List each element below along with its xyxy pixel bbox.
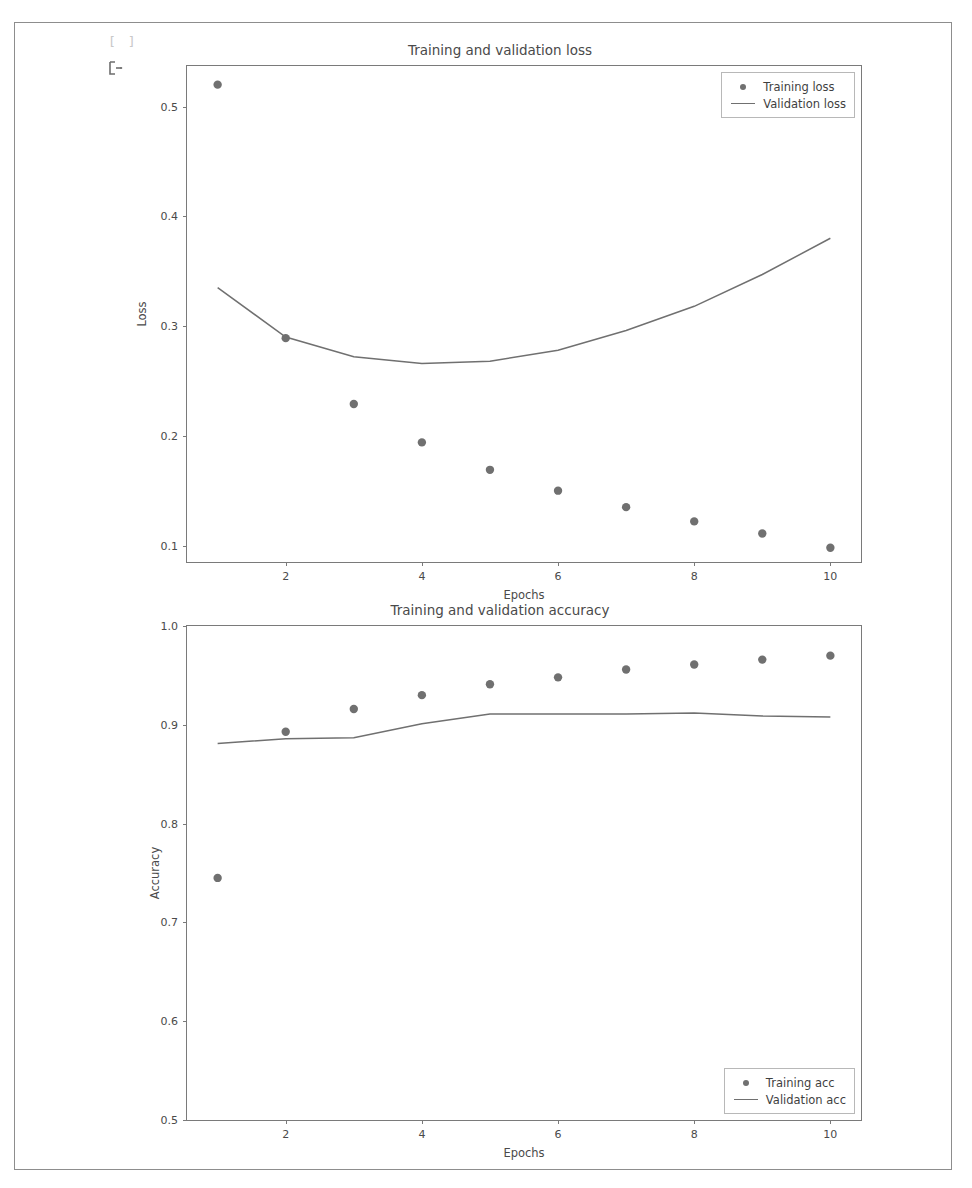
y-tick-mark	[183, 436, 187, 437]
x-axis-label-accuracy: Epochs	[187, 1146, 861, 1160]
x-tick-mark	[830, 1120, 831, 1124]
x-tick-label: 8	[691, 1128, 698, 1141]
y-tick-mark	[183, 626, 187, 627]
data-point	[282, 728, 290, 736]
x-tick-mark	[422, 562, 423, 566]
y-tick-label: 1.0	[161, 620, 179, 633]
y-tick-label: 0.8	[161, 817, 179, 830]
data-point	[418, 438, 426, 446]
x-tick-label: 8	[691, 570, 698, 583]
y-tick-label: 0.6	[161, 1015, 179, 1028]
legend-marker-line-icon	[731, 1099, 761, 1101]
x-tick-label: 10	[823, 1128, 837, 1141]
data-point	[826, 544, 834, 552]
x-tick-mark	[558, 1120, 559, 1124]
y-tick-mark	[183, 922, 187, 923]
data-point	[554, 673, 562, 681]
y-tick-mark	[183, 824, 187, 825]
y-tick-mark	[183, 1120, 187, 1121]
data-point	[690, 517, 698, 525]
series-line-1	[218, 238, 831, 363]
data-point	[622, 503, 630, 511]
x-tick-mark	[694, 562, 695, 566]
legend-marker-dot-icon	[728, 84, 758, 90]
loss-series-canvas	[187, 66, 861, 562]
y-tick-mark	[183, 725, 187, 726]
y-tick-mark	[183, 1021, 187, 1022]
plot-area-accuracy: Accuracy Epochs 0.50.60.70.80.91.0246810…	[186, 625, 862, 1121]
legend-loss: Training loss Validation loss	[721, 72, 855, 118]
x-tick-label: 6	[555, 570, 562, 583]
scanned-page: [ ] Training and validation loss Loss Ep…	[0, 0, 972, 1188]
accuracy-series-canvas	[187, 626, 861, 1120]
series-line-1	[218, 713, 831, 744]
x-tick-label: 4	[418, 570, 425, 583]
data-point	[418, 691, 426, 699]
legend-entry-validation-loss: Validation loss	[728, 95, 846, 112]
x-tick-mark	[422, 1120, 423, 1124]
y-tick-mark	[183, 546, 187, 547]
x-tick-mark	[558, 562, 559, 566]
legend-label-validation-loss: Validation loss	[763, 97, 846, 111]
y-tick-mark	[183, 107, 187, 108]
legend-label-training-loss: Training loss	[763, 80, 834, 94]
data-point	[690, 660, 698, 668]
plot-area-loss: Loss Epochs 0.10.20.30.40.5246810 Traini…	[186, 65, 862, 563]
y-tick-label: 0.4	[161, 210, 179, 223]
legend-label-validation-acc: Validation acc	[766, 1093, 846, 1107]
data-point	[826, 651, 834, 659]
x-tick-label: 2	[282, 570, 289, 583]
y-axis-label-loss: Loss	[135, 301, 149, 326]
chart-title-loss: Training and validation loss	[95, 42, 905, 58]
x-tick-mark	[694, 1120, 695, 1124]
x-tick-label: 10	[823, 570, 837, 583]
legend-marker-line-icon	[728, 103, 758, 105]
y-tick-label: 0.7	[161, 916, 179, 929]
legend-entry-training-acc: Training acc	[731, 1074, 846, 1091]
data-point	[486, 466, 494, 474]
figure-training-validation-loss: Training and validation loss Loss Epochs…	[95, 36, 905, 596]
legend-accuracy: Training acc Validation acc	[724, 1068, 855, 1114]
y-tick-label: 0.5	[161, 1114, 179, 1127]
y-tick-mark	[183, 216, 187, 217]
legend-entry-training-loss: Training loss	[728, 78, 846, 95]
data-point	[350, 705, 358, 713]
figure-training-validation-accuracy: Training and validation accuracy Accurac…	[95, 598, 905, 1158]
y-axis-label-accuracy: Accuracy	[148, 847, 162, 900]
x-tick-label: 2	[282, 1128, 289, 1141]
y-tick-label: 0.9	[161, 718, 179, 731]
x-tick-mark	[286, 1120, 287, 1124]
legend-label-training-acc: Training acc	[766, 1076, 835, 1090]
x-tick-label: 4	[418, 1128, 425, 1141]
data-point	[350, 400, 358, 408]
data-point	[486, 680, 494, 688]
y-tick-label: 0.3	[161, 320, 179, 333]
data-point	[554, 486, 562, 494]
y-tick-label: 0.5	[161, 100, 179, 113]
x-tick-mark	[830, 562, 831, 566]
data-point	[622, 665, 630, 673]
data-point	[758, 655, 766, 663]
y-tick-mark	[183, 326, 187, 327]
legend-entry-validation-acc: Validation acc	[731, 1091, 846, 1108]
legend-marker-dot-icon	[731, 1080, 761, 1086]
chart-title-accuracy: Training and validation accuracy	[95, 602, 905, 618]
data-point	[758, 529, 766, 537]
y-tick-label: 0.1	[161, 539, 179, 552]
data-point	[213, 874, 221, 882]
x-tick-label: 6	[555, 1128, 562, 1141]
x-tick-mark	[286, 562, 287, 566]
data-point	[213, 80, 221, 88]
y-tick-label: 0.2	[161, 429, 179, 442]
